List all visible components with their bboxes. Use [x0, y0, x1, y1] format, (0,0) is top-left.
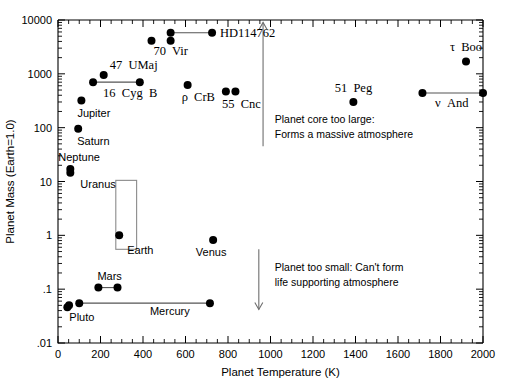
data-point-Jupiter [77, 97, 85, 105]
point-label-Venus: Venus [196, 246, 227, 258]
exoplanet-mass-temperature-chart: 0200400600800100012001400160018002000.01… [0, 0, 509, 382]
planet-core-too-large-line2: Forms a massive atmosphere [275, 128, 413, 140]
point-label-51-Peg: 51 Peg [335, 81, 373, 95]
point-label-Pluto: Pluto [69, 311, 94, 323]
x-tick-label: 400 [134, 348, 152, 360]
data-point-55-Cnc-b [231, 87, 239, 95]
data-point-47-UMaj [100, 71, 108, 79]
data-point-55-Cnc-a [222, 87, 230, 95]
y-tick-label: 1 [46, 229, 52, 241]
data-point-Mars-right [114, 284, 122, 292]
planet-too-small-line2: life supporting atmosphere [275, 276, 399, 288]
data-point-Mercury-left [75, 299, 83, 307]
data-point-rho-CrB [184, 81, 192, 89]
data-point-Mercury-right [206, 299, 214, 307]
data-point-16-Cyg-B-right [136, 78, 144, 86]
point-label-70-Vir: 70 Vir [154, 44, 189, 58]
data-point-HD114762-left [167, 29, 175, 37]
y-tick-label: 10000 [21, 14, 52, 26]
y-tick-label: 1000 [28, 68, 52, 80]
x-tick-label: 600 [176, 348, 194, 360]
y-tick-label: 100 [34, 122, 52, 134]
data-point-Earth [115, 231, 123, 239]
data-point-16-Cyg-B-left [89, 78, 97, 86]
x-tick-label: 200 [91, 348, 109, 360]
point-label-Jupiter: Jupiter [77, 107, 110, 119]
y-tick-label: 10 [40, 176, 52, 188]
data-point-tau-Boo [462, 57, 470, 65]
y-axis-title: Planet Mass (Earth=1.0) [4, 119, 16, 243]
x-tick-label: 1400 [343, 348, 367, 360]
point-label-16-Cyg-B-left: 16 Cyg B [103, 86, 157, 100]
data-point-nu-And-right [479, 89, 487, 97]
point-label-Uranus: Uranus [80, 178, 116, 190]
data-point-HD114762-right [208, 29, 216, 37]
data-point-Saturn [74, 125, 82, 133]
x-tick-label: 1200 [301, 348, 325, 360]
point-label-47-UMaj: 47 UMaj [110, 58, 158, 72]
y-tick-label: .01 [37, 337, 52, 349]
point-label-tau-Boo: τ Boo [450, 40, 482, 54]
x-tick-label: 1600 [386, 348, 410, 360]
point-label-rho-CrB: ρ CrB [182, 90, 215, 104]
data-point-Venus [209, 236, 217, 244]
x-tick-label: 800 [219, 348, 237, 360]
data-point-Pluto-b [65, 301, 73, 309]
x-axis-title: Planet Temperature (K) [221, 366, 340, 378]
planet-too-small-line1: Planet too small: Can't form [275, 261, 404, 273]
point-label-55-Cnc-a: 55 Cnc [222, 97, 261, 111]
y-tick-label: .1 [43, 283, 52, 295]
chart-canvas: 0200400600800100012001400160018002000.01… [0, 0, 509, 382]
x-tick-label: 1800 [428, 348, 452, 360]
x-tick-label: 2000 [471, 348, 495, 360]
data-point-51-Peg [349, 98, 357, 106]
point-label-Mars-left: Mars [97, 270, 122, 282]
point-label-Saturn: Saturn [77, 135, 109, 147]
point-label-Neptune: Neptune [58, 151, 100, 163]
planet-core-too-large-line1: Planet core too large: [275, 113, 375, 125]
data-point-nu-And-left [418, 89, 426, 97]
point-label-nu-And-right: ν And [435, 96, 469, 110]
point-label-Earth: Earth [127, 244, 153, 256]
point-label-HD114762-right: HD114762 [220, 26, 275, 40]
data-point-Mars-left [94, 284, 102, 292]
data-point-Neptune [66, 165, 74, 173]
point-label-Mercury-right: Mercury [150, 305, 190, 317]
x-tick-label: 1000 [258, 348, 282, 360]
x-tick-label: 0 [55, 348, 61, 360]
